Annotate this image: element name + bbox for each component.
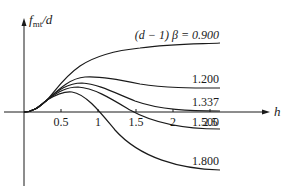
curve-0.900 — [24, 43, 220, 112]
curve-label-1.337: 1.337 — [192, 95, 219, 109]
curve-label-1.800: 1.800 — [192, 154, 219, 168]
x-tick-label: 2 — [170, 115, 176, 129]
curve-label-1.200: 1.200 — [192, 72, 219, 86]
chart: 0.5 1 1.5 2 2.5 fmt/d h (d − 1) β = 0.90… — [0, 0, 293, 191]
x-tick-label: 1.5 — [129, 115, 144, 129]
y-axis-label: fmt/d — [29, 12, 53, 29]
curves — [24, 43, 220, 170]
x-axis-label: h — [274, 104, 281, 119]
y-axis-arrow-icon — [22, 18, 27, 26]
x-axis-arrow-icon — [262, 110, 270, 115]
curve-1.800 — [24, 92, 220, 170]
x-tick-label: 1 — [95, 115, 101, 129]
x-tick-label: 0.5 — [54, 115, 69, 129]
curve-label-0.900: (d − 1) β = 0.900 — [135, 28, 219, 42]
curve-label-1.500: 1.500 — [192, 115, 219, 129]
